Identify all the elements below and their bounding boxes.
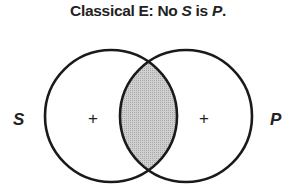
venn-diagram: S P + +: [0, 0, 296, 187]
label-s: S: [13, 110, 25, 129]
plus-s: +: [88, 109, 98, 128]
label-p: P: [270, 110, 282, 129]
plus-p: +: [199, 109, 209, 128]
